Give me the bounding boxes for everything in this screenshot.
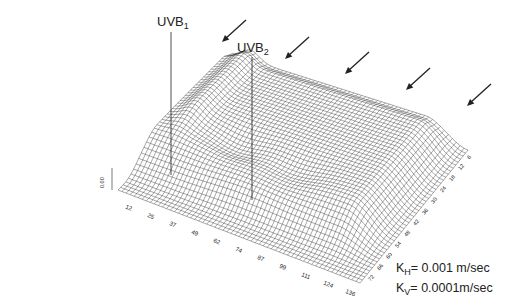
flow-arrow-icon bbox=[467, 84, 491, 106]
x-tick-label: 49 bbox=[191, 229, 200, 237]
x-tick-label: 99 bbox=[279, 263, 288, 271]
flow-arrow-icon bbox=[345, 52, 369, 74]
y-tick-label: 24 bbox=[439, 185, 448, 194]
y-tick-label: 60 bbox=[385, 251, 394, 260]
y-tick-label: 30 bbox=[430, 196, 439, 205]
x-tick-label: 25 bbox=[147, 212, 156, 220]
parameter-legend: KH= 0.001 m/sec KV= 0.0001m/sec bbox=[396, 260, 493, 300]
x-tick-label: 62 bbox=[213, 237, 222, 245]
x-tick-label: 124 bbox=[323, 280, 335, 290]
uvb1-label: UVB1 bbox=[157, 14, 189, 31]
uvb2-label: UVB2 bbox=[237, 40, 269, 57]
x-tick-label: 12 bbox=[125, 204, 134, 212]
y-tick-label: 6 bbox=[466, 154, 473, 160]
x-tick-label: 74 bbox=[235, 246, 244, 254]
y-tick-label: 42 bbox=[412, 218, 421, 227]
flow-arrow-icon bbox=[406, 68, 430, 90]
z-axis-ticks: 0.00 bbox=[99, 168, 112, 190]
y-tick-label: 36 bbox=[421, 207, 430, 216]
y-tick-label: 66 bbox=[376, 262, 385, 271]
surface-plot-figure: 1225374962748799111124136 61218243036424… bbox=[0, 0, 514, 308]
y-tick-label: 54 bbox=[394, 240, 403, 249]
z-tick-label: 0.00 bbox=[99, 177, 105, 188]
kv-line: KV= 0.0001m/sec bbox=[396, 280, 493, 300]
y-tick-label: 72 bbox=[367, 274, 376, 283]
kh-line: KH= 0.001 m/sec bbox=[396, 260, 493, 280]
surface-mesh bbox=[118, 50, 468, 283]
flow-arrow-icon bbox=[285, 37, 309, 59]
x-tick-label: 136 bbox=[345, 288, 357, 298]
flow-arrow-icon bbox=[222, 20, 246, 42]
flow-arrows bbox=[222, 20, 491, 106]
y-tick-label: 18 bbox=[448, 174, 457, 183]
x-tick-label: 37 bbox=[169, 220, 178, 228]
y-tick-label: 48 bbox=[403, 229, 412, 238]
x-tick-label: 111 bbox=[301, 271, 312, 280]
y-tick-label: 12 bbox=[457, 163, 466, 172]
mesh-lines bbox=[118, 50, 468, 283]
x-tick-label: 87 bbox=[257, 254, 266, 262]
